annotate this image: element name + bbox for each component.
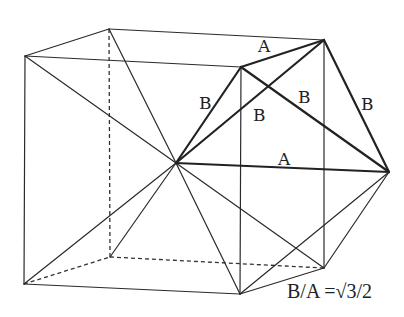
edge-bottom-front [24,284,240,294]
edge-top-left [25,29,109,56]
spoke-top-front-left [25,56,176,163]
hidden-edge-bottom-back [110,257,324,268]
spoke-bottom-back-right [176,163,324,268]
apex-edge-bottom-back [324,172,389,268]
hidden-edge-bottom-left [24,257,110,284]
diagram-canvas: A B B B B A B/A =√3/2 [0,0,404,317]
label-a-top: A [257,36,271,56]
spoke-bottom-front-right [176,163,240,294]
ratio-caption: B/A =√3/2 [287,280,372,302]
spoke-top-back-left [109,29,176,163]
hidden-edge-vertical [109,29,110,257]
spoke-bottom-back-left [110,163,176,257]
edge-top-back [109,29,324,40]
apex-edge-bottom-front [240,172,389,294]
edge-front-right-vertical [240,67,241,294]
label-b-cross: B [298,87,311,107]
edge-top-front [25,56,241,67]
edge-b-left [176,67,241,163]
label-a-mid: A [277,149,291,169]
cube-diagram: A B B B B A B/A =√3/2 [0,0,404,317]
label-b-right: B [361,94,374,114]
label-b-inner: B [253,105,266,125]
edge-a-top [241,40,324,67]
label-b-left: B [199,93,212,113]
edge-front-left-vertical [24,56,25,284]
spoke-bottom-front-left [24,163,176,284]
edge-b-right [324,40,389,172]
